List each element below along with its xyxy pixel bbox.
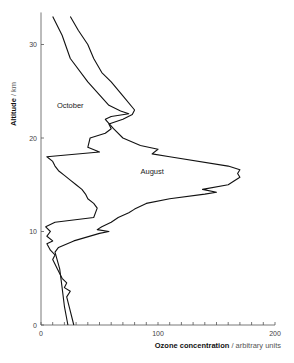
series-line-october xyxy=(46,16,135,325)
x-tick-label: 100 xyxy=(152,330,164,337)
ozone-altitude-chart: 01020300100200 AugustOctober Altitude / … xyxy=(0,0,294,363)
x-tick-label: 200 xyxy=(269,330,281,337)
series-labels: AugustOctober xyxy=(57,101,165,175)
y-tick-label: 30 xyxy=(29,41,37,48)
y-tick-label: 20 xyxy=(29,135,37,142)
series-label-october: October xyxy=(57,101,84,110)
y-axis-title: Altitude / km xyxy=(9,82,18,126)
x-tick-label: 0 xyxy=(39,330,43,337)
x-axis-title: Ozone concentration / arbitrary units xyxy=(155,341,282,350)
y-tick-label: 10 xyxy=(29,228,37,235)
tick-labels: 01020300100200 xyxy=(29,41,281,337)
series-label-august: August xyxy=(140,167,164,176)
y-tick-label: 0 xyxy=(33,322,37,329)
